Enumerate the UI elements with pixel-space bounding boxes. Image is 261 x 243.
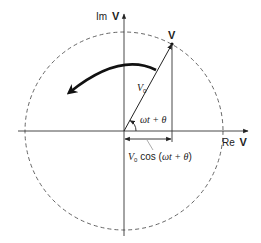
magnitude-label: V0 [137, 82, 147, 94]
real-axis-label: Re V [222, 136, 248, 148]
phasor-tip-label: V [168, 29, 176, 41]
imag-axis-label: Im V [96, 10, 120, 22]
angle-arc [130, 121, 136, 132]
angle-label: ωt + θ [140, 114, 167, 125]
projection-label: V0 cos (ωt + θ) [128, 151, 192, 163]
projection-leader-line [147, 140, 153, 150]
phasor-diagram: Im V Re V V V0 ωt + θ V0 cos (ωt + θ) [0, 0, 261, 243]
